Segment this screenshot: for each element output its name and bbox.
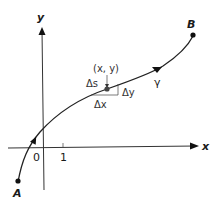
curve-name-label: γ [154,76,161,89]
y-axis-arrow-icon [39,27,46,35]
curve-diagram: x y 0 1 γ A B (x, y) Δs Δy Δx [0,0,215,204]
point-xy [104,86,109,91]
differential-element: (x, y) Δs Δy Δx [86,63,135,110]
origin-label: 0 [33,151,40,164]
unit-tick-label: 1 [60,151,67,164]
dx-label: Δx [94,99,107,110]
x-axis-label: x [201,140,210,153]
point-a-label: A [12,187,22,200]
x-axis-arrow-icon [190,143,199,150]
point-xy-label: (x, y) [93,63,119,74]
y-axis-label: y [37,11,45,24]
point-b-label: B [187,18,195,31]
dy-label: Δy [122,87,135,98]
point-b [190,32,195,37]
gamma-arrow-icon [152,67,162,73]
ds-label: Δs [86,78,98,89]
point-a [15,178,20,183]
